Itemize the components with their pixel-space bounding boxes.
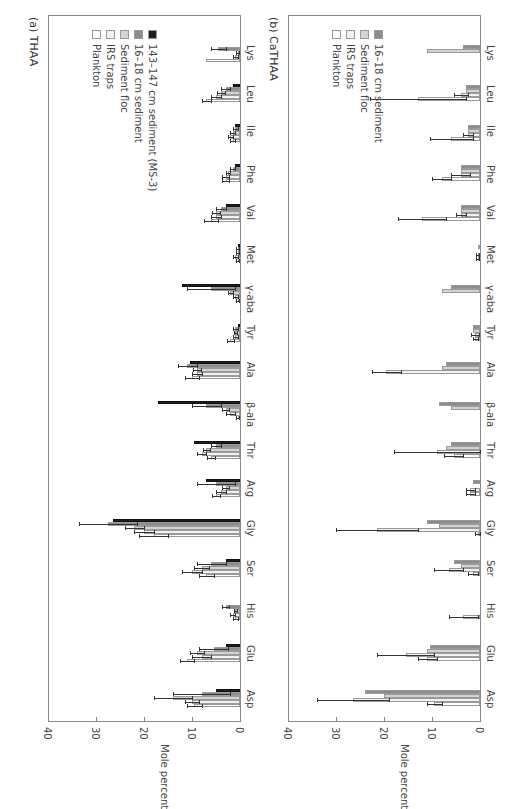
- error-cap: [226, 490, 227, 494]
- error-cap: [203, 448, 204, 452]
- error-cap: [468, 572, 469, 576]
- bar-sediment-floc: [384, 694, 480, 698]
- legend-label: IRS traps: [345, 44, 356, 89]
- bar-plankton: [206, 59, 240, 63]
- bar-sediment-floc: [446, 446, 480, 450]
- error-cap: [192, 655, 193, 659]
- error-bar: [377, 655, 435, 656]
- error-cap: [475, 488, 476, 492]
- error-cap: [236, 259, 237, 263]
- error-bar: [199, 576, 213, 577]
- axis-tick: [144, 717, 145, 722]
- error-cap: [235, 131, 236, 135]
- error-bar: [212, 213, 220, 214]
- error-cap: [190, 651, 191, 655]
- axis-tick: [96, 717, 97, 722]
- error-cap: [478, 615, 479, 619]
- error-cap: [451, 173, 452, 177]
- error-bar: [187, 289, 235, 290]
- error-bar: [317, 700, 389, 701]
- legend-item: IRS traps: [345, 30, 356, 89]
- category-label: Leu: [485, 85, 496, 103]
- bar-irs-traps: [197, 372, 240, 376]
- category-label: Lys: [485, 45, 496, 61]
- error-cap: [235, 482, 236, 486]
- error-cap: [226, 412, 227, 416]
- category-label: Ala: [245, 362, 256, 378]
- category-label: Ser: [485, 560, 496, 577]
- error-cap: [226, 562, 227, 566]
- legend-swatch: [332, 30, 341, 39]
- error-cap: [233, 55, 234, 59]
- tick-label: 20: [138, 727, 149, 740]
- error-cap: [418, 528, 419, 532]
- error-cap: [199, 647, 200, 651]
- category-label: Met: [485, 245, 496, 264]
- category-label: Ile: [485, 125, 496, 137]
- axis-tick: [480, 717, 481, 722]
- bar-16-18-cm-sediment: [451, 442, 480, 446]
- error-cap: [394, 450, 395, 454]
- error-cap: [233, 335, 234, 339]
- error-cap: [199, 574, 200, 578]
- error-cap: [238, 617, 239, 621]
- error-cap: [197, 482, 198, 486]
- error-bar: [430, 139, 473, 140]
- error-bar: [197, 484, 235, 485]
- error-cap: [437, 657, 438, 661]
- error-cap: [230, 131, 231, 135]
- legend-swatch: [360, 30, 369, 39]
- error-bar: [394, 452, 480, 453]
- error-cap: [221, 215, 222, 219]
- error-cap: [185, 700, 186, 704]
- error-cap: [192, 404, 193, 408]
- error-cap: [237, 609, 238, 613]
- error-cap: [194, 566, 195, 570]
- error-bar: [192, 374, 202, 375]
- bar-sediment-floc: [442, 366, 480, 370]
- legend-swatch: [148, 30, 157, 39]
- error-cap: [192, 372, 193, 376]
- bar-16-18-cm-sediment: [439, 402, 480, 406]
- error-cap: [210, 448, 211, 452]
- error-bar: [199, 649, 228, 650]
- error-bar: [466, 494, 476, 495]
- error-cap: [238, 335, 239, 339]
- error-cap: [180, 659, 181, 663]
- error-cap: [470, 173, 471, 177]
- error-cap: [201, 368, 202, 372]
- error-cap: [197, 452, 198, 456]
- error-cap: [451, 177, 452, 181]
- error-cap: [216, 207, 217, 211]
- error-cap: [168, 534, 169, 538]
- error-cap: [212, 211, 213, 215]
- category-label: γ-aba: [485, 285, 496, 313]
- legend-item: 16–18 cm sediment: [133, 30, 144, 143]
- error-bar: [197, 454, 207, 455]
- tick-label: 30: [90, 727, 101, 740]
- error-cap: [211, 215, 212, 219]
- category-label: Tyr: [245, 325, 256, 340]
- error-cap: [238, 127, 239, 131]
- error-bar: [466, 490, 476, 491]
- error-bar: [139, 536, 168, 537]
- error-cap: [444, 454, 445, 458]
- bar-16-18-cm-sediment: [466, 85, 480, 89]
- bar-sediment-floc: [197, 368, 240, 372]
- legend-swatch: [346, 30, 355, 39]
- error-cap: [228, 135, 229, 139]
- category-label: Ser: [245, 560, 256, 577]
- error-cap: [202, 372, 203, 376]
- legend-item: Plankton: [91, 30, 102, 87]
- error-cap: [432, 177, 433, 181]
- category-label: Ile: [245, 125, 256, 137]
- error-cap: [216, 490, 217, 494]
- bar-16-18-cm-sediment: [468, 125, 480, 129]
- error-cap: [144, 526, 145, 530]
- error-bar: [192, 406, 221, 407]
- axis-tick: [48, 717, 49, 722]
- error-bar: [336, 530, 418, 531]
- error-cap: [234, 609, 235, 613]
- error-cap: [221, 404, 222, 408]
- bar-143-147-cm-sediment-ms-3-: [194, 441, 240, 445]
